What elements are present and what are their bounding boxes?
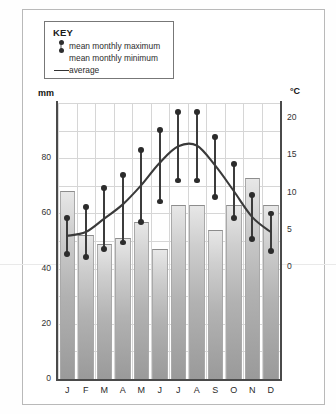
legend-title: KEY <box>53 27 173 38</box>
legend-item-max-label: mean monthly maximum <box>69 41 160 52</box>
left-axis-tick-label: 40 <box>25 264 51 273</box>
left-axis-tick-label: 60 <box>25 208 51 217</box>
plot-area: 020406080 05101520 JFMAMJJASOND <box>58 103 280 379</box>
month-label: J <box>169 385 187 395</box>
line-swatch-icon <box>53 70 69 71</box>
right-axis-line <box>280 101 282 381</box>
right-axis-unit: °C <box>290 86 300 96</box>
legend-item-max: mean monthly maximum <box>53 40 173 52</box>
left-axis-tick-label: 20 <box>25 319 51 328</box>
month-label: J <box>58 385 76 395</box>
month-label: J <box>151 385 169 395</box>
month-label: D <box>262 385 280 395</box>
month-label: M <box>95 385 113 395</box>
month-label: O <box>225 385 243 395</box>
left-axis-tick-label: 0 <box>25 374 51 383</box>
month-label: F <box>77 385 95 395</box>
max-min-marker-icon <box>53 41 69 52</box>
legend-item-average: average <box>53 64 173 76</box>
chart-legend: KEY mean monthly maximum mean monthly mi… <box>44 21 174 79</box>
average-temperature-curve <box>58 103 280 379</box>
legend-item-min: mean monthly minimum <box>53 52 173 64</box>
month-label: N <box>243 385 261 395</box>
right-axis-tick-label: 20 <box>287 113 313 122</box>
month-label: A <box>188 385 206 395</box>
page-background: KEY mean monthly maximum mean monthly mi… <box>0 0 336 414</box>
right-axis-tick-label: 10 <box>287 188 313 197</box>
right-axis-tick-label: 15 <box>287 150 313 159</box>
left-axis-unit: mm <box>38 88 54 98</box>
x-axis-line <box>56 379 282 381</box>
legend-item-min-label: mean monthly minimum <box>69 53 158 64</box>
left-axis-tick-label: 80 <box>25 153 51 162</box>
legend-item-average-label: average <box>69 65 99 76</box>
month-label: M <box>132 385 150 395</box>
right-axis-tick-label: 5 <box>287 225 313 234</box>
right-axis-tick-label: 0 <box>287 262 313 271</box>
month-label: S <box>206 385 224 395</box>
month-label: A <box>114 385 132 395</box>
